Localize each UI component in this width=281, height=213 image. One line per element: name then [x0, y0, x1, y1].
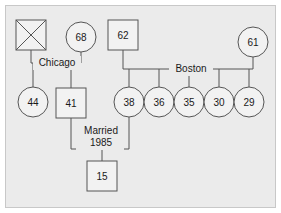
node-label-41: 41 [65, 98, 77, 109]
edge-label-married-year-text: 1985 [90, 137, 113, 148]
edge-label-chicago-text: Chicago [39, 57, 76, 68]
node-68[interactable]: 68 [66, 22, 96, 52]
node-label-30: 30 [213, 97, 225, 108]
pedigree-chart-panel: 68 62 61 44 41 38 36 35 [5, 5, 276, 208]
node-label-29: 29 [243, 97, 255, 108]
node-29[interactable]: 29 [234, 87, 264, 117]
node-61[interactable]: 61 [238, 27, 268, 57]
node-label-38: 38 [123, 97, 135, 108]
node-label-35: 35 [183, 97, 195, 108]
edge-label-chicago: Chicago [33, 56, 81, 70]
pedigree-diagram: 68 62 61 44 41 38 36 35 [6, 6, 275, 207]
node-35[interactable]: 35 [174, 87, 204, 117]
node-label-36: 36 [153, 97, 165, 108]
edge-label-boston-text: Boston [175, 63, 206, 74]
edge-label-boston: Boston [169, 62, 213, 76]
node-15[interactable]: 15 [87, 161, 117, 191]
node-44[interactable]: 44 [18, 87, 48, 117]
node-label-15: 15 [96, 171, 108, 182]
node-label-62: 62 [117, 30, 129, 41]
edge-label-married-text: Married [84, 125, 118, 136]
edge-label-married: Married 1985 [76, 123, 124, 150]
node-38[interactable]: 38 [114, 87, 144, 117]
node-41[interactable]: 41 [56, 88, 86, 118]
node-36[interactable]: 36 [144, 87, 174, 117]
node-label-68: 68 [75, 32, 87, 43]
node-30[interactable]: 30 [204, 87, 234, 117]
node-label-61: 61 [247, 37, 259, 48]
node-label-44: 44 [27, 97, 39, 108]
node-62[interactable]: 62 [108, 20, 138, 50]
node-deceased-male[interactable] [16, 20, 46, 50]
